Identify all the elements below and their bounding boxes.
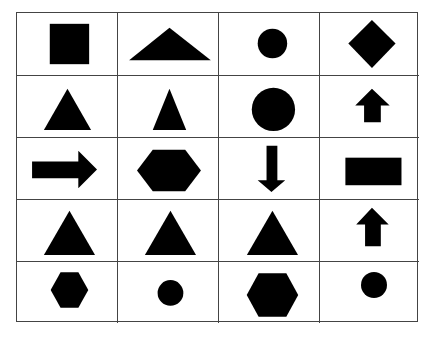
- cell-r2-c2: [118, 76, 219, 138]
- cell-r5-c1: [17, 262, 118, 323]
- triangle-icon: [17, 76, 117, 137]
- cell-r1-c3: [219, 13, 320, 76]
- cell-r5-c4: [320, 262, 419, 323]
- cell-r4-c1: [17, 200, 118, 262]
- up-arrow-icon: [320, 200, 419, 261]
- rectangle-icon: [320, 138, 419, 199]
- wide-hexagon-icon: [118, 138, 218, 199]
- hexagon-icon: [17, 262, 117, 323]
- cell-r4-c3: [219, 200, 320, 262]
- cell-r2-c4: [320, 76, 419, 138]
- circle-icon: [118, 262, 218, 323]
- triangle-icon: [118, 200, 218, 261]
- circle-icon: [320, 262, 419, 323]
- cell-r4-c2: [118, 200, 219, 262]
- circle-icon: [219, 13, 319, 75]
- cell-r5-c2: [118, 262, 219, 323]
- hexagon-icon: [219, 262, 319, 323]
- cell-r1-c4: [320, 13, 419, 76]
- up-arrow-icon: [320, 76, 419, 137]
- cell-r1-c1: [17, 13, 118, 76]
- cell-r2-c3: [219, 76, 320, 138]
- down-arrow-icon: [219, 138, 319, 199]
- large-circle-icon: [219, 76, 319, 137]
- square-icon: [17, 13, 117, 75]
- cell-r5-c3: [219, 262, 320, 323]
- shape-grid: [16, 12, 418, 322]
- cell-r3-c4: [320, 138, 419, 200]
- wide-triangle-icon: [118, 13, 218, 75]
- diamond-icon: [320, 13, 419, 75]
- cell-r4-c4: [320, 200, 419, 262]
- cell-r3-c1: [17, 138, 118, 200]
- triangle-icon: [219, 200, 319, 261]
- cell-r3-c2: [118, 138, 219, 200]
- narrow-triangle-icon: [118, 76, 218, 137]
- cell-r2-c1: [17, 76, 118, 138]
- right-arrow-icon: [17, 138, 117, 199]
- cell-r3-c3: [219, 138, 320, 200]
- triangle-icon: [17, 200, 117, 261]
- cell-r1-c2: [118, 13, 219, 76]
